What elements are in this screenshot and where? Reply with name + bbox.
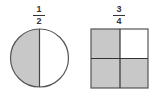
shaded-half: [11, 29, 40, 87]
quadrant-top-right: [120, 29, 148, 59]
circle-half-shaded: [11, 29, 69, 87]
square-three-quarters-shaded: [91, 29, 148, 88]
quadrant-bottom-left: [91, 59, 120, 89]
fraction-diagrams: [0, 0, 154, 94]
quadrant-bottom-right: [120, 59, 148, 89]
quadrant-top-left: [91, 29, 120, 59]
